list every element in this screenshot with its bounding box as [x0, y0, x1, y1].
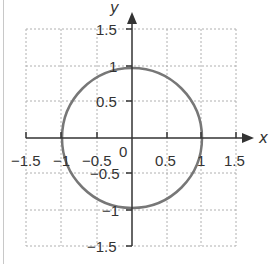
chart-canvas: x y 0 −1.5 −1 −0.5 0.5 1 1.5 1.5 1 0.5 −…: [0, 0, 274, 264]
x-tick-label: 1: [197, 152, 205, 169]
x-tick-label: 0.5: [155, 152, 176, 169]
y-tick-label: −1: [102, 202, 119, 219]
x-tick-label: −1: [53, 152, 70, 169]
y-axis-label: y: [109, 0, 120, 17]
y-tick-label: 1.5: [96, 21, 117, 38]
x-tick-label: 1.5: [224, 152, 245, 169]
y-axis: [126, 22, 132, 246]
y-tick-label: 1: [109, 58, 117, 75]
y-tick-label: −1.5: [87, 238, 117, 255]
x-axis-arrow-icon: [242, 133, 254, 143]
x-tick-label: −1.5: [11, 152, 41, 169]
y-tick-label: 0.5: [96, 93, 117, 110]
origin-label: 0: [119, 143, 127, 160]
y-tick-label: −0.5: [90, 165, 120, 182]
x-axis-label: x: [258, 129, 268, 147]
x-axis: [26, 132, 244, 138]
y-axis-arrow-icon: [127, 12, 137, 24]
